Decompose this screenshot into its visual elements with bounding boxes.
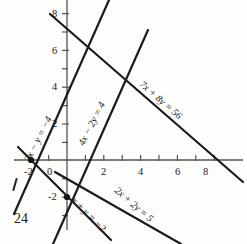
figure-page: -2 0 2 4 6 8 8 6 4 2 -2 2x − y = −4 4x −… bbox=[0, 0, 247, 244]
x-tick-label-6: 6 bbox=[175, 167, 180, 178]
line-7x-plus-8y-eq-56 bbox=[50, 14, 243, 182]
intersection-point-0-minus2 bbox=[64, 194, 70, 200]
y-tick-label-8: 8 bbox=[52, 9, 57, 20]
x-tick-label-8: 8 bbox=[203, 167, 208, 178]
y-axis-ticks bbox=[62, 14, 69, 216]
page-number: 24 bbox=[14, 212, 28, 226]
x-tick-label-2: 2 bbox=[101, 167, 106, 178]
y-tick-label-6: 6 bbox=[52, 46, 57, 57]
x-tick-label-0: 0 bbox=[47, 167, 52, 178]
line-2x-plus-2y-eq-5 bbox=[55, 172, 181, 244]
y-tick-label--2: -2 bbox=[48, 192, 57, 203]
coordinate-graph bbox=[0, 0, 247, 244]
y-tick-label-4: 4 bbox=[52, 82, 57, 93]
x-tick-label-4: 4 bbox=[138, 167, 143, 178]
x-tick-label--2: -2 bbox=[24, 167, 33, 178]
